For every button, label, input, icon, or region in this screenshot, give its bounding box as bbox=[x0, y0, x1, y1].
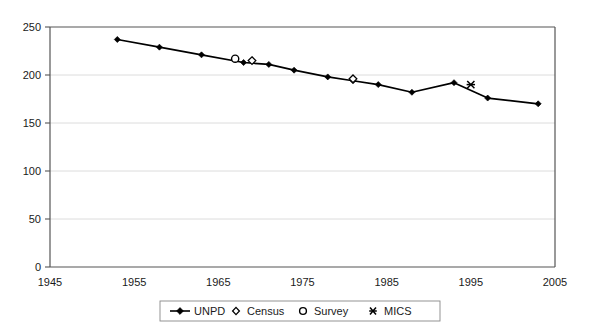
y-label-50: 50 bbox=[29, 213, 41, 225]
x-label-1995: 1995 bbox=[459, 276, 483, 288]
x-label-1955: 1955 bbox=[122, 276, 146, 288]
legend-label-survey: Survey bbox=[314, 305, 349, 317]
legend: UNPD Census Survey MICS bbox=[160, 301, 440, 321]
y-label-0: 0 bbox=[35, 261, 41, 273]
y-label-250: 250 bbox=[23, 21, 41, 33]
y-label-150: 150 bbox=[23, 117, 41, 129]
x-label-1975: 1975 bbox=[290, 276, 314, 288]
legend-label-census: Census bbox=[247, 305, 285, 317]
chart-svg: 250 200 150 100 50 0 1945 1955 1965 1975… bbox=[0, 0, 599, 330]
x-label-2005: 2005 bbox=[543, 276, 567, 288]
legend-label-mics: MICS bbox=[384, 305, 412, 317]
chart-container: 250 200 150 100 50 0 1945 1955 1965 1975… bbox=[0, 0, 599, 330]
legend-label-unpd: UNPD bbox=[194, 305, 225, 317]
datapoint-survey-1967 bbox=[232, 55, 239, 62]
y-label-200: 200 bbox=[23, 69, 41, 81]
series-survey bbox=[232, 55, 239, 62]
x-label-1985: 1985 bbox=[374, 276, 398, 288]
open-circle-icon bbox=[300, 308, 307, 315]
y-label-100: 100 bbox=[23, 165, 41, 177]
x-label-1965: 1965 bbox=[206, 276, 230, 288]
x-label-1945: 1945 bbox=[38, 276, 62, 288]
